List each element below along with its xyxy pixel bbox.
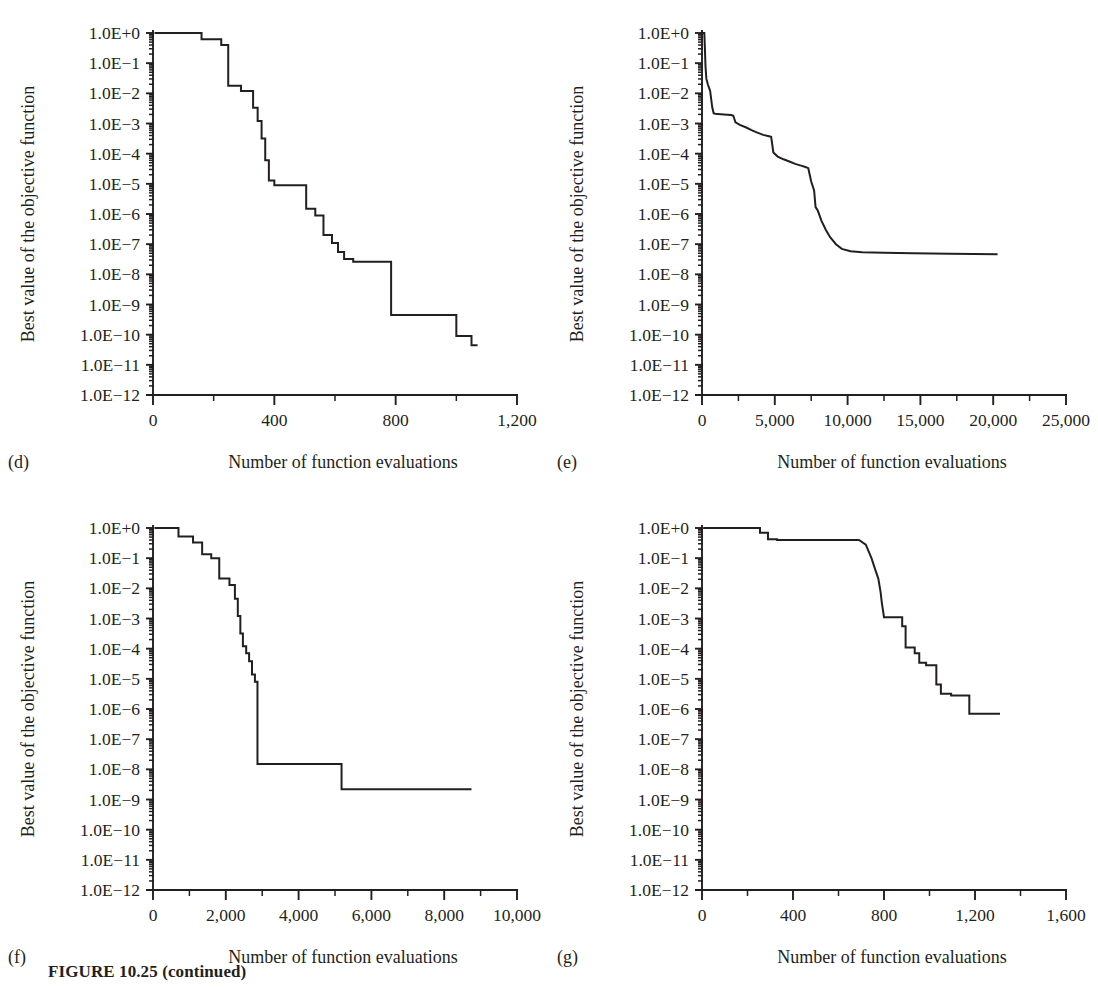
y-axis-title: Best value of the objective function <box>18 581 38 837</box>
y-tick-label: 1.0E−6 <box>638 699 689 719</box>
x-tick-label: 10,000 <box>493 905 541 925</box>
x-axis-title: Number of function evaluations <box>228 947 457 967</box>
panel-letter-g: (g) <box>557 947 578 968</box>
y-tick-label: 1.0E−1 <box>89 53 140 73</box>
x-tick-label: 0 <box>698 410 707 430</box>
y-tick-label: 1.0E−10 <box>629 820 689 840</box>
y-tick-label: 1.0E−2 <box>638 578 689 598</box>
figure-caption: FIGURE 10.25 (continued) <box>48 962 246 988</box>
x-tick-label: 6,000 <box>352 905 392 925</box>
y-tick-label: 1.0E−8 <box>638 759 689 779</box>
y-axis-title: Best value of the objective function <box>18 86 38 342</box>
x-tick-label: 1,200 <box>955 905 995 925</box>
x-tick-label: 20,000 <box>969 410 1017 430</box>
x-axis-title: Number of function evaluations <box>777 947 1006 967</box>
y-tick-label: 1.0E−7 <box>89 729 140 749</box>
y-tick-label: 1.0E−11 <box>630 850 689 870</box>
x-axis-ticks-d: 04008001,200 <box>149 394 537 430</box>
y-tick-label: 1.0E+0 <box>89 518 140 538</box>
y-tick-label: 1.0E−1 <box>638 548 689 568</box>
y-axis-ticks-f: 1.0E+01.0E−11.0E−21.0E−31.0E−41.0E−51.0E… <box>80 518 154 900</box>
panel-letter-f: (f) <box>8 947 26 968</box>
x-axis-title: Number of function evaluations <box>777 452 1006 472</box>
x-axis-ticks-e: 05,00010,00015,00020,00025,000 <box>698 394 1091 430</box>
x-tick-label: 10,000 <box>824 410 872 430</box>
figure-panel-grid: 1.0E+01.0E−11.0E−21.0E−31.0E−41.0E−51.0E… <box>0 0 1098 990</box>
y-tick-label: 1.0E−3 <box>89 609 140 629</box>
chart-svg-d: 1.0E+01.0E−11.0E−21.0E−31.0E−41.0E−51.0E… <box>0 0 549 495</box>
chart-svg-f: 1.0E+01.0E−11.0E−21.0E−31.0E−41.0E−51.0E… <box>0 495 549 990</box>
y-tick-label: 1.0E−7 <box>638 234 689 254</box>
y-tick-label: 1.0E−7 <box>638 729 689 749</box>
x-tick-label: 8,000 <box>425 905 465 925</box>
y-tick-label: 1.0E−3 <box>89 114 140 134</box>
axes-group-g <box>696 526 1066 890</box>
x-tick-label: 0 <box>149 905 158 925</box>
y-tick-label: 1.0E−2 <box>638 83 689 103</box>
y-tick-label: 1.0E−1 <box>638 53 689 73</box>
y-tick-label: 1.0E−11 <box>81 850 140 870</box>
y-tick-label: 1.0E−4 <box>89 639 140 659</box>
y-axis-title: Best value of the objective function <box>567 581 587 837</box>
axes-group-e <box>696 31 1066 395</box>
x-tick-label: 800 <box>871 905 898 925</box>
x-tick-label: 1,600 <box>1046 905 1086 925</box>
x-tick-label: 25,000 <box>1042 410 1090 430</box>
x-tick-label: 4,000 <box>279 905 319 925</box>
y-axis-title: Best value of the objective function <box>567 86 587 342</box>
y-tick-label: 1.0E−5 <box>89 174 140 194</box>
y-tick-label: 1.0E−8 <box>89 264 140 284</box>
y-axis-ticks-e: 1.0E+01.0E−11.0E−21.0E−31.0E−41.0E−51.0E… <box>629 23 703 405</box>
y-tick-label: 1.0E+0 <box>89 23 140 43</box>
y-tick-label: 1.0E−12 <box>629 880 689 900</box>
y-tick-label: 1.0E−4 <box>89 144 140 164</box>
x-tick-label: 400 <box>261 410 288 430</box>
y-tick-label: 1.0E−5 <box>638 669 689 689</box>
x-tick-label: 0 <box>149 410 158 430</box>
chart-svg-e: 1.0E+01.0E−11.0E−21.0E−31.0E−41.0E−51.0E… <box>549 0 1098 495</box>
y-tick-label: 1.0E−5 <box>638 174 689 194</box>
y-axis-ticks-g: 1.0E+01.0E−11.0E−21.0E−31.0E−41.0E−51.0E… <box>629 518 703 900</box>
axes-group-d <box>147 31 517 395</box>
y-tick-label: 1.0E−8 <box>638 264 689 284</box>
chart-panel-d: 1.0E+01.0E−11.0E−21.0E−31.0E−41.0E−51.0E… <box>0 0 549 495</box>
x-tick-label: 0 <box>698 905 707 925</box>
y-tick-label: 1.0E−2 <box>89 578 140 598</box>
x-axis-title: Number of function evaluations <box>228 452 457 472</box>
y-tick-label: 1.0E−12 <box>80 385 140 405</box>
y-tick-label: 1.0E−7 <box>89 234 140 254</box>
y-tick-label: 1.0E−10 <box>80 325 140 345</box>
y-tick-label: 1.0E−1 <box>89 548 140 568</box>
y-tick-label: 1.0E−4 <box>638 639 689 659</box>
panel-letter-e: (e) <box>557 452 577 473</box>
y-tick-label: 1.0E−10 <box>80 820 140 840</box>
panel-letter-d: (d) <box>8 452 29 473</box>
x-axis-ticks-f: 02,0004,0006,0008,00010,000 <box>149 889 542 925</box>
y-tick-label: 1.0E−2 <box>89 83 140 103</box>
y-tick-label: 1.0E−10 <box>629 325 689 345</box>
convergence-curve-g <box>703 528 1000 714</box>
y-tick-label: 1.0E−5 <box>89 669 140 689</box>
convergence-curve-d <box>155 33 478 345</box>
y-axis-ticks-d: 1.0E+01.0E−11.0E−21.0E−31.0E−41.0E−51.0E… <box>80 23 154 405</box>
y-tick-label: 1.0E−12 <box>80 880 140 900</box>
chart-panel-f: 1.0E+01.0E−11.0E−21.0E−31.0E−41.0E−51.0E… <box>0 495 549 990</box>
axes-group-f <box>147 526 517 890</box>
y-tick-label: 1.0E−11 <box>630 355 689 375</box>
y-tick-label: 1.0E−6 <box>89 204 140 224</box>
y-tick-label: 1.0E−8 <box>89 759 140 779</box>
y-tick-label: 1.0E−6 <box>89 699 140 719</box>
y-tick-label: 1.0E−9 <box>638 790 689 810</box>
y-tick-label: 1.0E+0 <box>638 518 689 538</box>
chart-panel-e: 1.0E+01.0E−11.0E−21.0E−31.0E−41.0E−51.0E… <box>549 0 1098 495</box>
y-tick-label: 1.0E−4 <box>638 144 689 164</box>
x-tick-label: 1,200 <box>497 410 537 430</box>
y-tick-label: 1.0E−6 <box>638 204 689 224</box>
x-tick-label: 400 <box>780 905 807 925</box>
y-tick-label: 1.0E−9 <box>638 295 689 315</box>
convergence-curve-e <box>703 33 998 254</box>
x-tick-label: 5,000 <box>755 410 795 430</box>
x-tick-label: 2,000 <box>206 905 246 925</box>
chart-panel-g: 1.0E+01.0E−11.0E−21.0E−31.0E−41.0E−51.0E… <box>549 495 1098 990</box>
chart-svg-g: 1.0E+01.0E−11.0E−21.0E−31.0E−41.0E−51.0E… <box>549 495 1098 990</box>
